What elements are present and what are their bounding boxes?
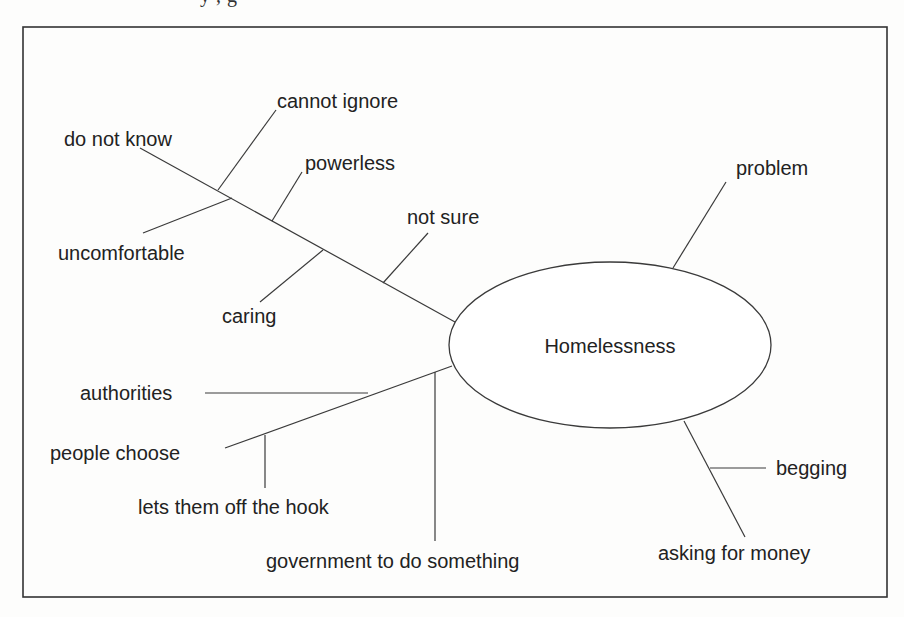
label-asking-for-money: asking for money <box>658 542 810 564</box>
label-lets-them-off-the-hook: lets them off the hook <box>138 496 330 518</box>
label-begging: begging <box>776 457 847 479</box>
label-do-not-know: do not know <box>64 128 172 150</box>
concept-map: Homelessness cannot ignore do not know p… <box>0 0 904 617</box>
edge-cannot-ignore <box>218 110 276 190</box>
label-problem: problem <box>736 157 808 179</box>
edge-powerless <box>272 172 302 221</box>
edge-uncomfortable <box>143 198 232 233</box>
edge-do-not-know <box>140 148 455 322</box>
label-government-to-do-something: government to do something <box>266 550 520 572</box>
label-cannot-ignore: cannot ignore <box>277 90 398 112</box>
edge-problem <box>673 182 726 268</box>
edge-asking-for-money <box>684 421 745 537</box>
edge-caring <box>260 250 323 302</box>
label-caring: caring <box>222 305 276 327</box>
label-powerless: powerless <box>305 152 395 174</box>
central-node-label: Homelessness <box>544 335 675 357</box>
label-authorities: authorities <box>80 382 172 404</box>
page: y , g Homelessness cannot ignore do not … <box>0 0 904 617</box>
edge-not-sure <box>383 233 428 283</box>
label-uncomfortable: uncomfortable <box>58 242 185 264</box>
label-people-choose: people choose <box>50 442 180 464</box>
label-not-sure: not sure <box>407 206 479 228</box>
edge-people-choose <box>225 366 452 448</box>
